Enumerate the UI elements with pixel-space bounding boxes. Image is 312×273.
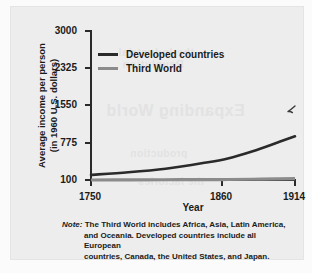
y-tick-label: 775 xyxy=(60,137,77,148)
legend-swatch-developed-countries xyxy=(98,53,118,56)
y-axis-title-line1: Average income per person xyxy=(36,43,48,168)
x-tick: 1914 xyxy=(294,181,296,186)
figure-note: Note: The Third World includes Africa, A… xyxy=(62,220,290,262)
y-tick-label: 100 xyxy=(60,174,77,185)
y-tick-label: 2325 xyxy=(55,62,77,73)
x-tick-label: 1914 xyxy=(283,191,305,202)
legend-label: Developed countries xyxy=(126,49,224,60)
note-line-2: and Oceania. Developed countries include… xyxy=(62,231,290,252)
handwritten-check-mark-icon xyxy=(282,104,298,120)
scanned-page: Expanding World the Industrial Revolutio… xyxy=(0,0,312,273)
x-tick-label: 1860 xyxy=(210,191,232,202)
legend-item-third-world: Third World xyxy=(98,61,224,75)
note-line-1: The Third World includes Africa, Asia, L… xyxy=(85,220,286,229)
legend: Developed countries Third World xyxy=(98,47,224,75)
x-tick-label: 1750 xyxy=(79,191,101,202)
note-line-3: countries, Canada, the United States, an… xyxy=(62,252,290,263)
x-tick: 1750 xyxy=(90,181,92,186)
series-line-third-world xyxy=(91,179,295,180)
legend-swatch-third-world xyxy=(98,67,118,70)
legend-label: Third World xyxy=(126,63,182,74)
y-tick-label: 1550 xyxy=(55,99,77,110)
x-axis-title: Year xyxy=(90,202,296,213)
series-line-developed-countries xyxy=(91,136,295,175)
y-tick-label: 3000 xyxy=(55,25,77,36)
x-tick: 1860 xyxy=(221,181,223,186)
figure-panel: Expanding World the Industrial Revolutio… xyxy=(10,6,304,260)
note-label: Note: xyxy=(62,220,82,229)
legend-item-developed-countries: Developed countries xyxy=(98,47,224,61)
